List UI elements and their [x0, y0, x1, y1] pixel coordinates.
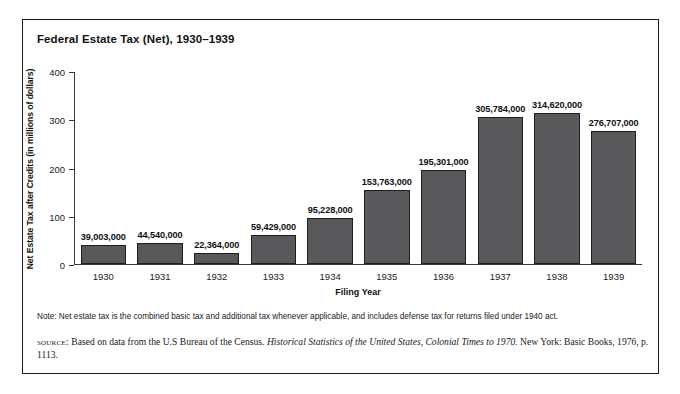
bar-value-label: 305,784,000 — [475, 104, 525, 114]
bar-value-label: 276,707,000 — [589, 118, 639, 128]
figure-source: source: Based on data from the U.S Burea… — [37, 335, 649, 362]
y-axis-tick-label: 400 — [49, 67, 65, 78]
bar-group: 59,429,0001933 — [245, 72, 302, 264]
plot-area: Net Estate Tax after Credits (in million… — [74, 72, 642, 265]
x-axis-tick-label: 1935 — [376, 271, 397, 282]
y-axis-tick — [69, 217, 74, 218]
source-text-before: Based on data from the U.S Bureau of the… — [71, 336, 264, 347]
figure-note: Note: Net estate tax is the combined bas… — [37, 312, 647, 322]
bar-value-label: 44,540,000 — [138, 230, 183, 240]
bar[interactable] — [307, 218, 352, 264]
y-axis-title: Net Estate Tax after Credits (in million… — [25, 68, 35, 269]
x-axis-tick-label: 1933 — [263, 271, 284, 282]
bar-group: 153,763,0001935 — [359, 72, 416, 264]
bar[interactable] — [478, 117, 523, 264]
x-axis-tick-label: 1931 — [149, 271, 170, 282]
bar-group: 39,003,0001930 — [75, 72, 132, 264]
bar-group: 314,620,0001938 — [529, 72, 586, 264]
bar[interactable] — [364, 190, 409, 264]
y-axis-tick — [69, 265, 74, 266]
bar-value-label: 22,364,000 — [194, 240, 239, 250]
bar-value-label: 314,620,000 — [532, 100, 582, 110]
bar[interactable] — [421, 170, 466, 264]
chart-title: Federal Estate Tax (Net), 1930–1939 — [37, 33, 235, 45]
x-axis-tick-label: 1938 — [546, 271, 567, 282]
x-axis-tick-label: 1939 — [603, 271, 624, 282]
x-axis-tick-label: 1930 — [93, 271, 114, 282]
bars-layer: 39,003,000193044,540,000193122,364,00019… — [75, 72, 642, 264]
bar[interactable] — [534, 113, 579, 264]
x-axis-line — [74, 264, 642, 265]
y-axis-tick-label: 200 — [49, 163, 65, 174]
bar-group: 276,707,0001939 — [585, 72, 642, 264]
source-publication-title: Historical Statistics of the United Stat… — [267, 336, 518, 347]
bar-value-label: 39,003,000 — [81, 232, 126, 242]
y-axis-tick — [69, 169, 74, 170]
bar-group: 195,301,0001936 — [415, 72, 472, 264]
bar[interactable] — [81, 245, 126, 264]
bar[interactable] — [137, 243, 182, 264]
bar[interactable] — [194, 253, 239, 264]
y-axis-tick — [69, 120, 74, 121]
x-axis-title: Filing Year — [74, 287, 642, 297]
bar-group: 305,784,0001937 — [472, 72, 529, 264]
bar-value-label: 59,429,000 — [251, 222, 296, 232]
y-axis-tick — [69, 72, 74, 73]
y-axis-tick-label: 100 — [49, 211, 65, 222]
bar[interactable] — [251, 235, 296, 264]
x-axis-tick-label: 1936 — [433, 271, 454, 282]
bar-value-label: 95,228,000 — [308, 205, 353, 215]
bar-value-label: 195,301,000 — [419, 157, 469, 167]
bar-group: 44,540,0001931 — [132, 72, 189, 264]
x-axis-tick-label: 1932 — [206, 271, 227, 282]
y-axis-tick-label: 0 — [60, 260, 65, 271]
bar-group: 95,228,0001934 — [302, 72, 359, 264]
x-axis-tick-label: 1937 — [490, 271, 511, 282]
x-axis-tick-label: 1934 — [320, 271, 341, 282]
source-label: source: — [37, 336, 69, 347]
figure-frame: Federal Estate Tax (Net), 1930–1939 Net … — [22, 19, 659, 374]
bar-value-label: 153,763,000 — [362, 177, 412, 187]
bar-group: 22,364,0001932 — [188, 72, 245, 264]
bar[interactable] — [591, 131, 636, 264]
y-axis-tick-label: 300 — [49, 115, 65, 126]
